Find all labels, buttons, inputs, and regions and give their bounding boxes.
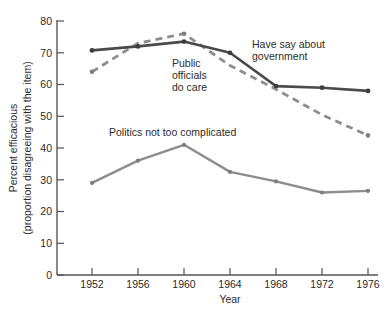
- y-tick-label: 60: [40, 78, 52, 90]
- line-chart: 80 70 60 50 40 30 20 10 0 1952 1956 1960…: [0, 0, 387, 309]
- x-axis-title: Year: [219, 293, 241, 305]
- data-point: [90, 48, 95, 53]
- data-point: [182, 39, 187, 44]
- data-point: [228, 50, 233, 55]
- data-point: [182, 31, 187, 36]
- data-point: [320, 85, 325, 90]
- x-axis-ticks: [92, 268, 368, 275]
- series-line-public-officials: [92, 34, 368, 136]
- annotation-public-officials-do-care: Public officials do care: [172, 57, 207, 93]
- x-tick-label: 1972: [310, 278, 334, 290]
- annotation-line: Have say about: [252, 38, 325, 50]
- y-tick-label: 10: [40, 237, 52, 249]
- x-axis-tick-labels: 1952 1956 1960 1964 1968 1972 1976: [80, 278, 380, 290]
- data-point: [274, 84, 279, 89]
- annotation-line: government: [252, 50, 308, 62]
- y-tick-label: 50: [40, 110, 52, 122]
- y-tick-label: 20: [40, 205, 52, 217]
- x-tick-label: 1968: [264, 278, 288, 290]
- data-point: [136, 159, 140, 163]
- data-point: [136, 44, 141, 49]
- data-point: [182, 143, 186, 147]
- chart-container: 80 70 60 50 40 30 20 10 0 1952 1956 1960…: [0, 0, 387, 309]
- y-tick-label: 40: [40, 142, 52, 154]
- data-point: [320, 190, 324, 194]
- x-tick-label: 1964: [218, 278, 242, 290]
- y-tick-label: 30: [40, 174, 52, 186]
- data-point: [366, 89, 371, 94]
- data-point: [90, 181, 94, 185]
- y-tick-label: 70: [40, 47, 52, 59]
- x-tick-label: 1956: [126, 278, 150, 290]
- x-tick-label: 1960: [172, 278, 196, 290]
- series-politics-not-too-complicated: [90, 143, 370, 195]
- annotation-line: Public: [172, 57, 201, 69]
- annotation-have-say-about-government: Have say about government: [252, 38, 325, 62]
- annotation-line: officials: [172, 69, 207, 81]
- y-tick-label: 80: [40, 15, 52, 27]
- x-tick-label: 1976: [356, 278, 380, 290]
- y-axis-title-line2: (proportion disagreeing with the item): [21, 61, 33, 234]
- data-point: [274, 179, 278, 183]
- annotation-line: Politics not too complicated: [109, 126, 236, 138]
- annotation-line: do care: [172, 81, 207, 93]
- y-tick-label: 0: [46, 269, 52, 281]
- y-axis-ticks: [57, 21, 64, 275]
- series-line-politics: [92, 145, 368, 193]
- annotation-politics-not-too-complicated: Politics not too complicated: [109, 126, 236, 138]
- data-point: [366, 189, 370, 193]
- y-axis-tick-labels: 80 70 60 50 40 30 20 10 0: [40, 15, 52, 281]
- data-point: [366, 133, 371, 138]
- data-point: [228, 170, 232, 174]
- x-tick-label: 1952: [80, 278, 104, 290]
- data-point: [90, 70, 95, 75]
- y-axis-title-line1: Percent efficacious: [7, 104, 19, 193]
